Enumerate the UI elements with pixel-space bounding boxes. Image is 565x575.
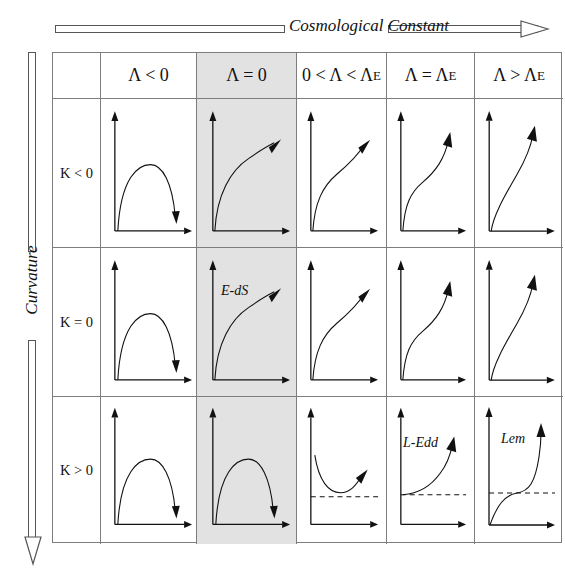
column-header-subscript: E — [537, 68, 545, 84]
row-header-k-negative: K < 0 — [53, 99, 101, 248]
cosmological-constant-axis: Cosmological Constant — [0, 14, 565, 44]
plot-bounce — [297, 397, 386, 544]
column-header-lambda-sub-e: 0 < Λ < ΛE — [297, 53, 387, 99]
column-header-lambda-gt-e: Λ > ΛE — [475, 53, 563, 99]
column-header-subscript: E — [373, 68, 381, 84]
panel-k-positive-lambda-gt-e: Lem — [475, 397, 563, 544]
left-arrow-shaft-bottom — [28, 340, 36, 540]
row-header-label: K < 0 — [60, 165, 93, 182]
column-header-subscript: E — [448, 68, 456, 84]
panel-k-zero-lambda-zero: E-dS — [197, 248, 297, 397]
column-header-lambda-negative: Λ < 0 — [101, 53, 197, 99]
grid-corner-cell — [53, 53, 101, 99]
panel-k-negative-lambda-negative — [101, 99, 197, 248]
row-header-label: K > 0 — [60, 462, 93, 479]
plot-loiter — [475, 397, 563, 544]
plot-steep-rise — [475, 248, 563, 396]
panel-k-zero-lambda-gt-e — [475, 248, 563, 397]
plot-steep-rise — [475, 99, 563, 247]
plot-concave-rise — [197, 99, 296, 247]
panel-k-zero-lambda-eq-e — [387, 248, 475, 397]
curve-annotation-l-edd: L-Edd — [403, 435, 438, 451]
plot-arch — [101, 397, 196, 544]
panel-k-negative-lambda-zero — [197, 99, 297, 248]
panel-k-zero-lambda-sub-e — [297, 248, 387, 397]
panel-k-negative-lambda-gt-e — [475, 99, 563, 248]
right-arrow-outline-icon — [520, 16, 550, 42]
row-header-k-positive: K > 0 — [53, 397, 101, 544]
column-header-label: Λ = Λ — [405, 65, 449, 86]
curvature-label: Curvature — [22, 228, 42, 332]
row-header-k-zero: K = 0 — [53, 248, 101, 397]
curvature-axis: Curvature — [12, 52, 52, 562]
column-header-label: Λ = 0 — [226, 65, 267, 86]
plot-from-asymptote-rise — [387, 397, 474, 544]
curve-annotation-e-ds: E-dS — [221, 283, 248, 299]
top-arrow-shaft-left — [55, 25, 285, 33]
panel-k-positive-lambda-eq-e: L-Edd — [387, 397, 475, 544]
row-header-label: K = 0 — [60, 314, 93, 331]
plot-arch — [101, 248, 196, 396]
plot-s-rise — [387, 248, 474, 396]
column-header-label: Λ > Λ — [493, 65, 537, 86]
plot-gentle-s-rise — [297, 248, 386, 396]
panel-k-positive-lambda-sub-e — [297, 397, 387, 544]
cosmological-constant-label: Cosmological Constant — [289, 16, 389, 36]
curve-annotation-lem: Lem — [501, 431, 525, 447]
down-arrow-outline-icon — [20, 536, 46, 566]
panel-k-negative-lambda-eq-e — [387, 99, 475, 248]
plot-gentle-s-rise — [297, 99, 386, 247]
plot-arch — [101, 99, 196, 247]
cosmology-classification-grid: Λ < 0 Λ = 0 0 < Λ < ΛE Λ = ΛE Λ > ΛE K <… — [52, 52, 562, 543]
left-arrow-shaft-top — [28, 52, 36, 252]
plot-concave-rise — [197, 248, 296, 396]
column-header-lambda-eq-e: Λ = ΛE — [387, 53, 475, 99]
panel-k-positive-lambda-zero — [197, 397, 297, 544]
column-header-label: 0 < Λ < Λ — [302, 65, 373, 86]
column-header-lambda-zero: Λ = 0 — [197, 53, 297, 99]
column-header-label: Λ < 0 — [128, 65, 169, 86]
plot-s-rise — [387, 99, 474, 247]
panel-k-positive-lambda-negative — [101, 397, 197, 544]
panel-k-zero-lambda-negative — [101, 248, 197, 397]
plot-arch — [197, 397, 296, 544]
panel-k-negative-lambda-sub-e — [297, 99, 387, 248]
